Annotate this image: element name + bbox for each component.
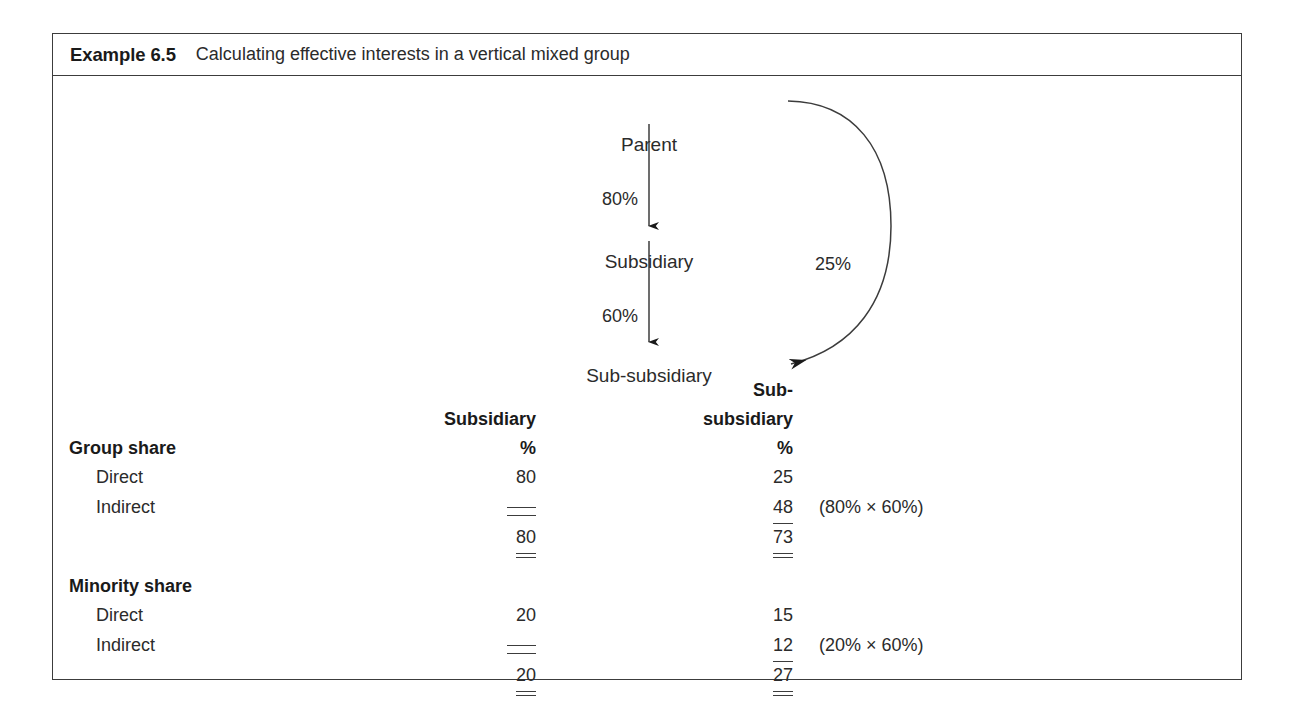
section-title-group-share: Group share <box>69 434 176 463</box>
unit-subsidiary-percent: % <box>386 434 536 463</box>
total-minority-subsidiary: 20 <box>386 661 536 692</box>
group-structure-diagram: Parent Subsidiary Sub-subsidiary 80% 60%… <box>53 76 1241 366</box>
table-grid: Sub- Subsidiary subsidiary Group share %… <box>53 376 1241 691</box>
column-header-sub-subsidiary-line2: subsidiary <box>643 405 793 434</box>
row-label-group-direct: Direct <box>96 463 143 492</box>
arrow-parent-to-sub-subsidiary-direct <box>788 101 891 364</box>
table-row-group-total: 80 73 <box>53 523 1241 553</box>
row-label-minority-indirect: Indirect <box>96 631 155 660</box>
note-minority-indirect: (20% × 60%) <box>819 631 924 660</box>
example-number-label: Example 6.5 <box>70 44 176 66</box>
table-row: Direct 20 15 <box>53 601 1241 631</box>
value-group-direct-subsidiary: 80 <box>386 463 536 492</box>
example-title: Calculating effective interests in a ver… <box>196 44 630 65</box>
table-row: Indirect 12 (20% × 60%) <box>53 631 1241 661</box>
value-minority-direct-subsidiary: 20 <box>386 601 536 630</box>
table-row: Indirect 48 (80% × 60%) <box>53 493 1241 523</box>
total-minority-sub-subsidiary: 27 <box>643 661 793 692</box>
table-row-minority-share-title: Minority share <box>53 572 1241 601</box>
edge-label-parent-subsidiary: 80% <box>586 189 638 210</box>
table-row: Direct 80 25 <box>53 463 1241 493</box>
effective-interest-table: Sub- Subsidiary subsidiary Group share %… <box>53 376 1241 691</box>
subtotal-rule-minority-subsidiary <box>507 645 536 654</box>
value-minority-direct-sub-subsidiary: 15 <box>643 601 793 630</box>
table-row-minority-total: 20 27 <box>53 661 1241 691</box>
diagram-lines <box>53 76 1241 376</box>
value-group-direct-sub-subsidiary: 25 <box>643 463 793 492</box>
edge-label-parent-sub-subsidiary: 25% <box>815 254 873 275</box>
subtotal-rule-group-subsidiary <box>507 507 536 516</box>
total-group-subsidiary: 80 <box>386 523 536 554</box>
example-box: Example 6.5 Calculating effective intere… <box>52 33 1242 680</box>
example-header: Example 6.5 Calculating effective intere… <box>53 34 1241 76</box>
total-group-sub-subsidiary: 73 <box>643 523 793 554</box>
page-canvas: Example 6.5 Calculating effective intere… <box>0 0 1292 718</box>
edge-label-subsidiary-sub-subsidiary: 60% <box>586 306 638 327</box>
diagram-node-subsidiary: Subsidiary <box>605 251 694 273</box>
table-section-spacer <box>53 553 1241 572</box>
value-group-indirect-sub-subsidiary: 48 <box>643 493 793 524</box>
unit-sub-subsidiary-percent: % <box>643 434 793 463</box>
example-body: Parent Subsidiary Sub-subsidiary 80% 60%… <box>53 76 1241 679</box>
value-minority-indirect-sub-subsidiary: 12 <box>643 631 793 662</box>
table-header-row-2: Subsidiary subsidiary <box>53 405 1241 434</box>
diagram-node-parent: Parent <box>621 134 677 156</box>
table-header-row-1: Sub- <box>53 376 1241 405</box>
table-row-group-share-title: Group share % % <box>53 434 1241 463</box>
note-group-indirect: (80% × 60%) <box>819 493 924 522</box>
row-label-minority-direct: Direct <box>96 601 143 630</box>
row-label-group-indirect: Indirect <box>96 493 155 522</box>
column-header-subsidiary: Subsidiary <box>386 405 536 434</box>
section-title-minority-share: Minority share <box>69 572 192 601</box>
column-header-sub-subsidiary-line1: Sub- <box>643 376 793 405</box>
